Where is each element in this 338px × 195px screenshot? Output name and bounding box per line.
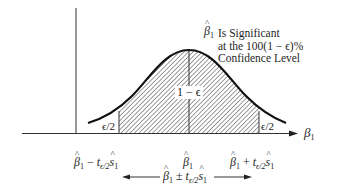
upper-bound-label: β1 + tϵ/2s1: [230, 156, 274, 173]
upper-plus: +: [240, 155, 253, 169]
lower-beta-hat: β: [74, 156, 80, 169]
left-tail-label: ϵ/2: [101, 120, 116, 133]
interval-arrow-right-icon: [244, 175, 252, 180]
upper-beta-hat: β: [230, 156, 236, 169]
lower-s-sub: 1: [114, 162, 118, 171]
interval-arrow-left-icon: [122, 175, 130, 180]
annotation-symbol: β1: [204, 25, 214, 43]
interval-s-hat: s: [198, 170, 203, 183]
upper-s-sub: 1: [270, 162, 274, 171]
lower-t-sub: ϵ/2: [100, 162, 109, 171]
annotation-sub: 1: [210, 31, 214, 40]
axis-label: β1: [304, 126, 314, 144]
center-beta-hat: β: [183, 156, 189, 169]
center-region-label: 1 − ϵ: [175, 86, 203, 99]
axis-label-sub: 1: [310, 133, 314, 142]
annotation-line-3: Confidence Level: [218, 52, 303, 65]
lower-s-hat: s: [110, 156, 115, 169]
lower-bound-label: β1 − tϵ/2s1: [74, 156, 118, 173]
annotation-line-1: Is Significant: [218, 27, 303, 40]
interval-label: β1 ± tϵ/2s1: [163, 170, 207, 187]
significance-annotation: β1 Is Significant at the 100(1 − ϵ)% Con…: [218, 27, 303, 65]
interval-pm: ±: [173, 169, 186, 183]
upper-s-hat: s: [266, 156, 271, 169]
interval-t-sub: ϵ/2: [189, 176, 198, 185]
interval-s-sub: 1: [203, 176, 207, 185]
upper-t-sub: ϵ/2: [256, 162, 265, 171]
right-tail-label: ϵ/2: [260, 120, 275, 133]
lower-minus: −: [84, 155, 97, 169]
axis-arrowhead-icon: [289, 131, 298, 137]
annotation-beta-hat: β: [204, 25, 210, 38]
annotation-line-2: at the 100(1 − ϵ)%: [218, 40, 303, 53]
interval-beta-hat: β: [163, 170, 169, 183]
